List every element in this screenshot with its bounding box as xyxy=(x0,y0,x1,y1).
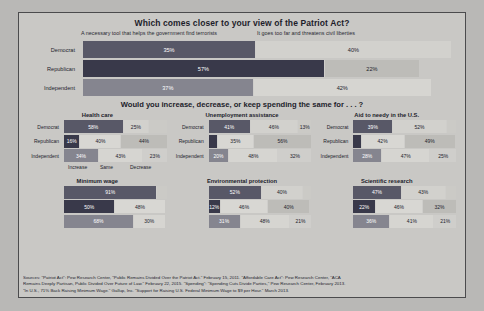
bar-segment-increase: 31% xyxy=(209,215,241,228)
bar-track: 12% 46% 40% xyxy=(209,200,312,213)
bar-track: 47% 43% xyxy=(353,186,456,199)
bar-segment-too-far: 40% xyxy=(256,41,451,58)
spending-chart-row-1: Health care Democrat 58% 25% Republican … xyxy=(19,112,465,172)
chart-environmental-protection: Environmental protection 52% 40% 12% 46%… xyxy=(170,178,315,230)
bar-segment-necessary: 35% xyxy=(83,41,256,58)
bar-segment-increase: 47% xyxy=(353,186,401,199)
infographic-panel: Which comes closer to your view of the P… xyxy=(18,12,466,298)
bar-track: 16% 40% 44% xyxy=(64,135,167,148)
chart-health-care: Health care Democrat 58% 25% Republican … xyxy=(25,112,170,172)
bar-segment-increase: 22% xyxy=(353,200,376,213)
bar-segment-decrease: 32% xyxy=(423,200,456,213)
axis-label-same: Same xyxy=(100,164,113,170)
bar-segment-decrease: 32% xyxy=(278,149,311,162)
table-row: Democrat 39% 52% xyxy=(317,120,456,133)
bar-segment-same: 48% xyxy=(229,149,278,162)
bar-segment-increase: 52% xyxy=(209,186,262,199)
infographic-page: Which comes closer to your view of the P… xyxy=(0,0,484,311)
bar-segment-same: 48% xyxy=(115,200,164,213)
bar-segment-too-far: 42% xyxy=(254,79,431,96)
bar-segment-same: 35% xyxy=(218,135,254,148)
bar-segment-decrease xyxy=(446,186,456,199)
bar-segment-increase: 58% xyxy=(64,120,124,133)
bar-segment-increase: 28% xyxy=(353,149,382,162)
chart-title: Environmental protection xyxy=(173,178,312,184)
bar-segment-decrease: 44% xyxy=(121,135,166,148)
bar-segment-same: 25% xyxy=(124,120,150,133)
bar-segment-same: 40% xyxy=(80,135,121,148)
bar-segment-increase: 41% xyxy=(209,120,251,133)
bar-track: 35% 40% xyxy=(83,41,451,58)
chart-title: Health care xyxy=(28,112,167,118)
chart-title: Unemployment assistance xyxy=(173,112,312,118)
bar-segment-decrease: 56% xyxy=(254,135,311,148)
bar-segment-same: 46% xyxy=(376,200,423,213)
table-row: Republican 16% 40% 44% xyxy=(28,135,167,148)
bar-track: 37% 42% xyxy=(83,79,431,96)
bar-segment-same: 48% xyxy=(241,215,290,228)
legend-label-necessary-tool: A necessary tool that helps the governme… xyxy=(81,30,217,36)
bar-segment-increase: 34% xyxy=(64,149,99,162)
legend-label-too-far: It goes too far and threatens civil libe… xyxy=(257,30,355,36)
axis-label-increase: Increase xyxy=(68,164,87,170)
chart-scientific-research: Scientific research 47% 43% 22% 46% 32% xyxy=(314,178,459,230)
bar-segment-same: 52% xyxy=(393,120,446,133)
row-label-republican: Republican xyxy=(19,60,79,77)
bar-segment-decrease: 21% xyxy=(290,215,312,228)
spending-section-title: Would you increase, decrease, or keep sp… xyxy=(19,100,465,109)
row-label-democrat: Democrat xyxy=(317,120,351,133)
chart-title: Aid to needy in the U.S. xyxy=(317,112,456,118)
bar-segment-same: 46% xyxy=(221,200,268,213)
row-label-independent xyxy=(317,215,351,228)
bar-track: 20% 48% 32% xyxy=(209,149,312,162)
bar-segment-decrease: 13% xyxy=(298,120,311,133)
table-row: Democrat 41% 46% 13% xyxy=(173,120,312,133)
table-row: 36% 41% 21% xyxy=(317,215,456,228)
table-row: Republican 57% 22% xyxy=(19,60,465,77)
bar-segment-decrease: 40% xyxy=(268,200,309,213)
bar-track: 52% 40% xyxy=(209,186,312,199)
patriot-act-chart: Democrat 35% 40% Republican 57% 22% Inde… xyxy=(19,41,465,96)
bar-segment-increase xyxy=(209,135,218,148)
table-row: Democrat 35% 40% xyxy=(19,41,465,58)
bar-track: 31% 48% 21% xyxy=(209,215,312,228)
bar-segment-increase: 12% xyxy=(209,200,221,213)
bar-segment-increase: 91% xyxy=(64,186,157,199)
row-label-republican xyxy=(173,200,207,213)
patriot-act-title: Which comes closer to your view of the P… xyxy=(19,18,465,28)
bar-segment-same xyxy=(157,186,166,199)
row-label-independent xyxy=(173,215,207,228)
bar-segment-increase: 36% xyxy=(353,215,390,228)
table-row: 52% 40% xyxy=(173,186,312,199)
bar-track: 57% 22% xyxy=(83,60,419,77)
bar-track: 42% 49% xyxy=(353,135,456,148)
bar-segment-same: 43% xyxy=(99,149,143,162)
bar-segment-decrease: 49% xyxy=(405,135,455,148)
bar-track: 35% 56% xyxy=(209,135,312,148)
row-label-republican xyxy=(317,200,351,213)
table-row: Democrat 58% 25% xyxy=(28,120,167,133)
bar-segment-same: 41% xyxy=(390,215,434,228)
row-label-independent xyxy=(28,215,62,228)
table-row: 47% 43% xyxy=(317,186,456,199)
patriot-act-legend: A necessary tool that helps the governme… xyxy=(19,30,465,40)
bar-segment-increase: 16% xyxy=(64,135,80,148)
bar-segment-increase: 20% xyxy=(209,149,230,162)
bar-track: 91% xyxy=(64,186,167,199)
bar-segment-same: 43% xyxy=(402,186,446,199)
bar-segment-decrease xyxy=(149,120,166,133)
sources-line-3: "In U.S., 71% Back Raising Minimum Wage.… xyxy=(23,288,461,294)
row-label-democrat xyxy=(28,186,62,199)
table-row: Independent 20% 48% 32% xyxy=(173,149,312,162)
bar-segment-decrease xyxy=(447,120,456,133)
bar-track: 68% 30% xyxy=(64,215,167,228)
bar-track: 36% 41% 21% xyxy=(353,215,456,228)
row-label-independent: Independent xyxy=(28,149,62,162)
row-label-democrat: Democrat xyxy=(28,120,62,133)
table-row: 22% 46% 32% xyxy=(317,200,456,213)
bar-segment-increase: 68% xyxy=(64,215,134,228)
bar-track: 50% 48% xyxy=(64,200,167,213)
bar-segment-same: 47% xyxy=(382,149,430,162)
row-label-democrat xyxy=(173,186,207,199)
table-row: Independent 28% 47% 25% xyxy=(317,149,456,162)
